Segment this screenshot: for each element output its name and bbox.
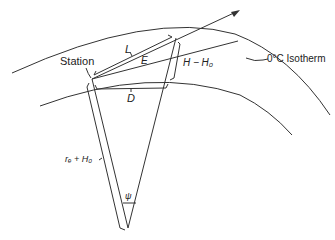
radial-line-station: [92, 79, 128, 228]
label-H-H0: H − H₀: [183, 57, 213, 68]
label-L: L: [125, 43, 131, 55]
surface-arc: [40, 82, 292, 135]
radial-line-target: [128, 38, 176, 228]
bracket-radius: [87, 83, 125, 230]
bracket-H: [170, 42, 180, 80]
bracket-D: [95, 84, 168, 89]
bracket-radius-tick: [99, 158, 102, 160]
label-psi: ψ: [125, 191, 132, 201]
diagram-canvas: Station L E H − H₀ D 0°C Isotherm rₑ + H…: [0, 0, 335, 240]
label-isotherm: 0°C Isotherm: [267, 53, 325, 64]
label-radius: rₑ + H₀: [65, 154, 92, 164]
label-E: E: [141, 55, 148, 66]
tangent-ray: [92, 41, 238, 79]
beam-ray: [92, 12, 236, 79]
label-D: D: [127, 92, 135, 104]
arrowhead-icon: [231, 10, 240, 17]
label-station: Station: [60, 55, 94, 67]
station-leader: [86, 68, 91, 78]
isotherm-leader: [246, 58, 268, 61]
bracket-L: [94, 35, 172, 75]
isotherm-arc: [12, 27, 330, 115]
